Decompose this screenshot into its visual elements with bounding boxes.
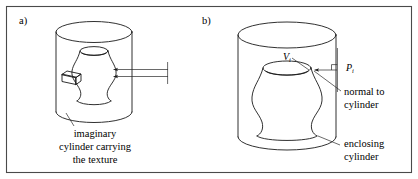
vase-b-right-profile: [311, 68, 322, 136]
panel-a-label: a): [19, 15, 27, 26]
normal-caption-line-1: normal to: [344, 85, 385, 98]
panel-b-drawing: [238, 22, 341, 150]
vase-a-inner-rim: [82, 53, 106, 55]
vertex-label-subscript: i: [289, 56, 291, 63]
vase-b-bottom: [257, 136, 317, 141]
figure-container: a) imaginary cylinder carrying the textu…: [0, 0, 418, 179]
vase-b-left-profile: [252, 68, 263, 136]
panel-b-label: b): [202, 15, 211, 26]
enclosing-caption-line-1: enclosing: [344, 137, 384, 150]
panel-a-drawing: [56, 22, 168, 127]
vase-a-left-profile: [72, 51, 81, 101]
texture-box-right-face: [76, 74, 81, 85]
cylinder-a-bottom-arc: [56, 112, 132, 123]
panel-a-caption-line-3: the texture: [22, 153, 168, 166]
cylinder-b-bottom-arc: [238, 137, 336, 150]
point-label: Pi: [346, 57, 354, 75]
panel-a-caption-line-1: imaginary: [22, 127, 168, 140]
normal-caption: normal to cylinder: [344, 85, 385, 111]
panel-a-caption: imaginary cylinder carrying the texture: [22, 127, 168, 166]
panel-a-caption-line-2: cylinder carrying: [22, 140, 168, 153]
enclosing-caption: enclosing cylinder: [344, 137, 384, 163]
enclosing-caption-line-2: cylinder: [344, 150, 384, 163]
vertex-label: Vi: [283, 46, 291, 64]
normal-caption-leader-line: [314, 71, 341, 91]
cylinder-a-top-ellipse: [56, 22, 132, 43]
vase-a-bottom: [77, 101, 111, 105]
normal-caption-line-2: cylinder: [344, 98, 385, 111]
vase-a-right-profile: [107, 51, 116, 101]
point-label-subscript: i: [352, 67, 354, 74]
cylinder-b-top-ellipse: [238, 22, 336, 48]
